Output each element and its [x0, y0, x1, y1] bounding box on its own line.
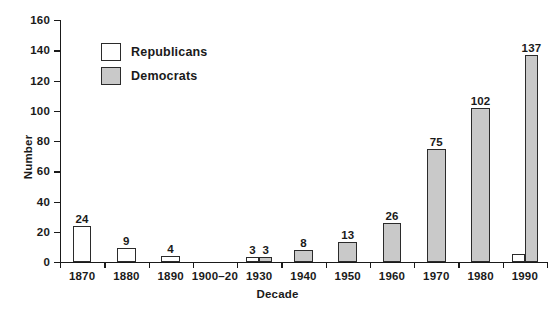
bar-value-label: 75 — [430, 136, 443, 148]
bar-value-label: 26 — [385, 210, 398, 222]
bar-democrats-1950: 13 — [338, 242, 357, 262]
x-tick-label: 1900–20 — [192, 270, 238, 282]
republicans-swatch-icon — [101, 43, 121, 61]
y-tick-label: 120 — [30, 75, 50, 87]
bar-group: 26 — [370, 20, 414, 262]
x-tick-label: 1880 — [113, 270, 139, 282]
bar-group: 102 — [458, 20, 502, 262]
bar-republicans-1930: 3 — [246, 257, 259, 262]
x-tick — [326, 262, 327, 268]
democrats-swatch-icon — [101, 67, 121, 85]
bar-value-label: 4 — [167, 243, 174, 255]
x-axis-title: Decade — [0, 288, 555, 300]
x-tick — [370, 262, 371, 268]
x-tick-label: 1990 — [512, 270, 538, 282]
bar-democrats-1970: 75 — [427, 149, 446, 262]
x-tick — [237, 262, 238, 268]
y-tick-label: 0 — [43, 256, 50, 268]
bar-group: 8 — [281, 20, 325, 262]
x-tick — [547, 262, 548, 268]
y-tick-label: 40 — [37, 196, 50, 208]
bar-democrats-1990: 137 — [525, 55, 538, 262]
y-tick-label: 60 — [37, 165, 50, 177]
bar-democrats-1960: 26 — [383, 223, 402, 262]
x-tick — [104, 262, 105, 268]
x-tick — [414, 262, 415, 268]
bar-value-label: 137 — [522, 42, 542, 54]
x-tick — [193, 262, 194, 268]
legend-label-democrats: Democrats — [131, 69, 197, 83]
x-tick-label: 1890 — [157, 270, 183, 282]
bar-value-label: 24 — [76, 213, 89, 225]
x-tick-label: 1930 — [246, 270, 272, 282]
bar-republicans-1890: 4 — [161, 256, 180, 262]
legend-item-republicans: Republicans — [101, 43, 208, 61]
y-tick-label: 100 — [30, 105, 50, 117]
x-tick — [60, 262, 61, 268]
chart-legend: Republicans Democrats — [101, 43, 208, 85]
bar-democrats-1930: 3 — [259, 257, 272, 262]
bar-value-label: 9 — [123, 235, 130, 247]
bar-democrats-1940: 8 — [294, 250, 313, 262]
bar-group: 137 — [503, 20, 547, 262]
y-tick-label: 140 — [30, 44, 50, 56]
x-tick — [458, 262, 459, 268]
bar-chart: Number Decade 020406080100120140160 2494… — [0, 0, 555, 313]
bar-group: 33 — [237, 20, 281, 262]
x-tick — [503, 262, 504, 268]
bar-value-label: 13 — [341, 229, 354, 241]
x-tick-label: 1980 — [467, 270, 493, 282]
bar-republicans-1870: 24 — [73, 226, 92, 262]
x-tick — [149, 262, 150, 268]
bar-democrats-1980: 102 — [471, 108, 490, 262]
y-tick-label: 160 — [30, 14, 50, 26]
legend-label-republicans: Republicans — [131, 45, 208, 59]
x-tick-label: 1950 — [335, 270, 361, 282]
bar-value-label: 3 — [249, 244, 256, 256]
bar-value-label: 102 — [471, 95, 491, 107]
legend-item-democrats: Democrats — [101, 67, 208, 85]
bar-republicans-1990 — [512, 254, 525, 262]
bar-group: 24 — [60, 20, 104, 262]
x-tick-label: 1960 — [379, 270, 405, 282]
bar-value-label: 8 — [300, 237, 307, 249]
x-tick-label: 1940 — [290, 270, 316, 282]
y-tick-label: 80 — [37, 135, 50, 147]
y-axis-title: Number — [22, 134, 34, 179]
bar-republicans-1880: 9 — [117, 248, 136, 262]
x-tick-label: 1970 — [423, 270, 449, 282]
bar-group: 75 — [414, 20, 458, 262]
x-tick — [281, 262, 282, 268]
x-tick-label: 1870 — [69, 270, 95, 282]
x-axis-line — [60, 262, 547, 263]
bar-group: 13 — [326, 20, 370, 262]
bar-value-label: 3 — [263, 244, 270, 256]
y-tick-label: 20 — [37, 226, 50, 238]
